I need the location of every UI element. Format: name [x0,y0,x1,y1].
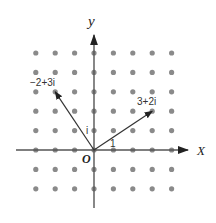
lattice-point [111,50,116,55]
lattice-point [130,89,135,94]
lattice-point [53,70,58,75]
lattice-point [130,70,135,75]
lattice-point [169,89,174,94]
lattice-point [33,70,38,75]
lattice-points [33,50,174,191]
complex-plane-diagram: y X O 1 i 3+2i −2+3i [0,0,216,223]
lattice-point [130,50,135,55]
vector-arrow [94,111,152,150]
lattice-point [111,70,116,75]
lattice-point [169,128,174,133]
vector-label-minus-2-plus-3i: −2+3i [30,77,55,88]
lattice-point [33,109,38,114]
lattice-point [169,50,174,55]
x-axis-label: X [196,143,206,158]
lattice-point [53,128,58,133]
lattice-point [111,128,116,133]
lattice-point [53,50,58,55]
lattice-point [53,109,58,114]
lattice-point [130,109,135,114]
lattice-point [111,167,116,172]
lattice-point [169,186,174,191]
lattice-point [150,167,155,172]
lattice-point [53,167,58,172]
lattice-point [150,50,155,55]
lattice-point [33,167,38,172]
lattice-point [150,128,155,133]
unit-imag-label: i [86,125,88,136]
lattice-point [111,89,116,94]
origin-label: O [82,152,91,166]
lattice-point [72,50,77,55]
unit-real-label: 1 [110,138,116,149]
lattice-point [72,128,77,133]
lattice-point [53,186,58,191]
lattice-point [72,70,77,75]
vector-arrow [55,92,94,150]
lattice-point [33,89,38,94]
lattice-point [33,186,38,191]
lattice-point [150,89,155,94]
lattice-point [72,109,77,114]
lattice-point [111,109,116,114]
vector-label-3-plus-2i: 3+2i [137,96,156,107]
lattice-point [33,128,38,133]
lattice-point [33,50,38,55]
lattice-point [111,186,116,191]
y-axis-label: y [86,13,95,29]
lattice-point [150,186,155,191]
lattice-point [130,128,135,133]
lattice-point [72,89,77,94]
lattice-point [169,70,174,75]
lattice-point [72,167,77,172]
lattice-point [169,167,174,172]
lattice-point [169,109,174,114]
lattice-point [150,70,155,75]
lattice-point [130,167,135,172]
lattice-point [130,186,135,191]
lattice-point [72,186,77,191]
